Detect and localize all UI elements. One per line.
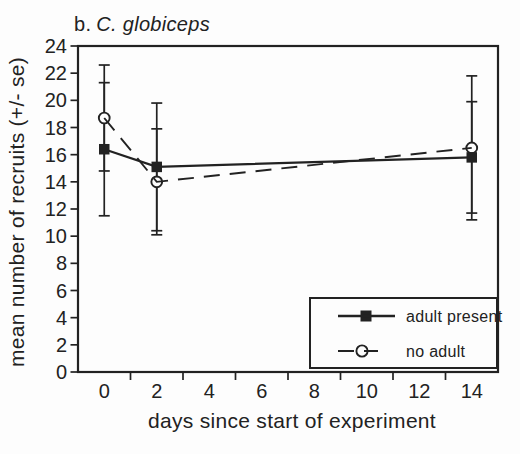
x-tick-label: 10 bbox=[356, 380, 378, 402]
y-tick-label: 24 bbox=[45, 35, 67, 57]
y-tick-label: 16 bbox=[45, 144, 67, 166]
legend-label: no adult bbox=[406, 343, 466, 360]
y-tick-label: 10 bbox=[45, 225, 67, 247]
x-tick-label: 12 bbox=[408, 380, 430, 402]
adult-present-marker bbox=[152, 162, 163, 173]
y-tick-label: 18 bbox=[45, 117, 67, 139]
figure-page: b.C. globiceps days since start of exper… bbox=[0, 0, 520, 454]
x-tick-label: 14 bbox=[461, 380, 483, 402]
x-tick-label: 4 bbox=[204, 380, 215, 402]
adult-present-marker bbox=[99, 144, 110, 155]
y-tick-label: 4 bbox=[56, 307, 67, 329]
series-line-no-adult bbox=[104, 118, 472, 182]
y-tick-label: 8 bbox=[56, 252, 67, 274]
legend-label: adult present bbox=[406, 308, 503, 325]
y-tick-label: 0 bbox=[56, 361, 67, 383]
y-tick-label: 2 bbox=[56, 334, 67, 356]
x-tick-label: 8 bbox=[309, 380, 320, 402]
y-tick-label: 22 bbox=[45, 62, 67, 84]
chart-canvas: days since start of experiment mean numb… bbox=[0, 0, 520, 454]
x-tick-label: 0 bbox=[99, 380, 110, 402]
y-tick-label: 12 bbox=[45, 198, 67, 220]
y-axis-title: mean number of recruits (+/- se) bbox=[5, 57, 28, 367]
y-tick-label: 14 bbox=[45, 171, 67, 193]
y-tick-label: 20 bbox=[45, 89, 67, 111]
x-tick-label: 2 bbox=[151, 380, 162, 402]
x-tick-label: 6 bbox=[256, 380, 267, 402]
adult-present-marker bbox=[467, 152, 478, 163]
y-tick-label: 6 bbox=[56, 280, 67, 302]
x-axis-title: days since start of experiment bbox=[148, 409, 436, 432]
